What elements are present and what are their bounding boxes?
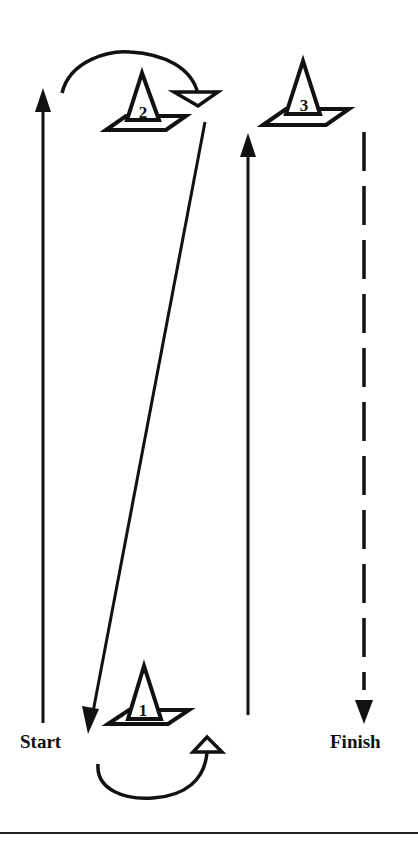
hollow-arrowhead-down-icon bbox=[174, 92, 218, 106]
arrowhead-up-icon bbox=[35, 88, 51, 112]
path-curve-around-cone-1 bbox=[98, 737, 222, 798]
cone-1: 1 bbox=[108, 666, 189, 724]
cone-2-number: 2 bbox=[139, 103, 148, 122]
cone-1-number: 1 bbox=[139, 701, 148, 720]
cone-2: 2 bbox=[106, 73, 186, 130]
path-diagonal-arrow bbox=[82, 122, 205, 734]
path-dashed-finish-arrow bbox=[355, 132, 373, 724]
drill-diagram: 2 3 1 Start Finish bbox=[0, 0, 418, 846]
arrowhead-up-icon bbox=[240, 133, 256, 157]
arrowhead-down-icon bbox=[82, 706, 99, 734]
finish-label: Finish bbox=[330, 731, 381, 752]
path-start-up-arrow bbox=[35, 88, 51, 723]
hollow-arrowhead-up-icon bbox=[193, 737, 222, 752]
cone-3: 3 bbox=[263, 61, 349, 125]
start-label: Start bbox=[20, 731, 62, 752]
arrowhead-down-icon bbox=[355, 700, 373, 724]
cone-3-number: 3 bbox=[300, 96, 309, 115]
path-middle-up-arrow bbox=[240, 133, 256, 715]
